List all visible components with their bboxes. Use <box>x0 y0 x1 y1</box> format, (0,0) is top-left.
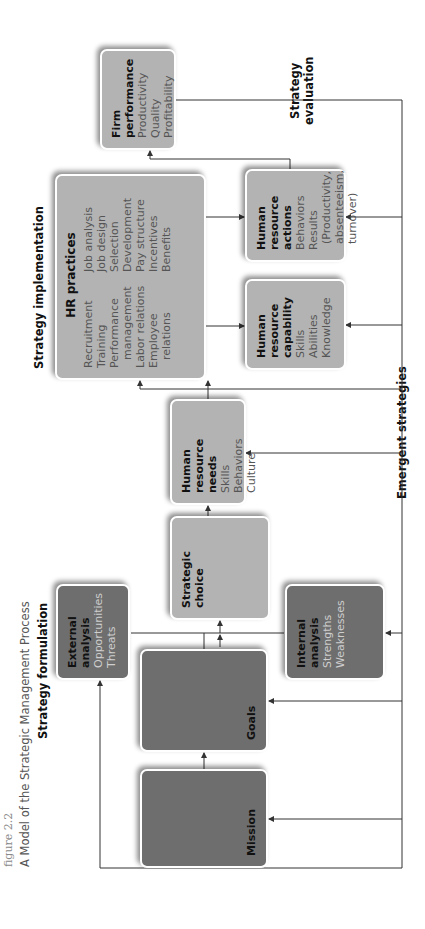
practice-item: Benefits <box>160 182 173 272</box>
performance-item: Profitability <box>162 57 175 138</box>
box-external-analysis: External analysis Opportunities Threats <box>56 584 130 680</box>
mission-title: Mission <box>245 777 258 856</box>
external-item: Opportunities <box>92 592 105 668</box>
external-item: Threats <box>105 592 118 668</box>
actions-title-2: resource <box>268 177 281 250</box>
box-firm-performance: Firm performance Productivity Quality Pr… <box>100 49 176 150</box>
box-strategic-choice: Strategic choice <box>170 516 270 620</box>
performance-item: Quality <box>149 57 162 138</box>
practices-col-1: Recruitment Training Performance managem… <box>82 278 173 368</box>
actions-title-1: Human <box>255 177 268 250</box>
needs-item: Behaviors <box>232 407 245 493</box>
practice-item: Training <box>95 278 108 368</box>
needs-title-2: resource <box>193 407 206 493</box>
practice-item: Pay structure <box>134 182 147 272</box>
performance-item: Productivity <box>136 57 149 138</box>
box-mission: Mission <box>140 769 268 868</box>
actions-item: Results <box>307 177 320 250</box>
practices-title: HR practices <box>65 182 78 368</box>
internal-title-2: analysis <box>308 592 321 668</box>
internal-item: Strengths <box>321 592 334 668</box>
needs-title-3: needs <box>206 407 219 493</box>
box-hr-actions: Human resource actions Behaviors Results… <box>245 169 346 262</box>
capability-item: Skills <box>294 287 307 358</box>
needs-item: Skills <box>219 407 232 493</box>
capability-title-1: Human <box>255 287 268 358</box>
internal-title-1: Internal <box>295 592 308 668</box>
box-hr-capability: Human resource capability Skills Abiliti… <box>245 279 346 370</box>
capability-item: Abilities <box>307 287 320 358</box>
needs-title-1: Human <box>180 407 193 493</box>
practice-item: Performance management <box>108 278 134 368</box>
capability-title-3: capability <box>281 287 294 358</box>
box-hr-needs: Human resource needs Skills Behaviors Cu… <box>170 399 246 505</box>
practice-item: Selection <box>108 182 121 272</box>
actions-item: Behaviors <box>294 177 307 250</box>
practice-item: Development <box>121 182 134 272</box>
actions-item: (Productivity, absenteeism, turnover) <box>320 177 359 250</box>
box-hr-practices: HR practices Recruitment Training Perfor… <box>55 174 206 380</box>
box-internal-analysis: Internal analysis Strengths Weaknesses <box>285 584 385 680</box>
box-goals: Goals <box>140 649 268 752</box>
capability-item: Knowledge <box>320 287 333 358</box>
needs-item: Culture <box>245 407 258 493</box>
practices-col-2: Job analysis Job design Selection Develo… <box>82 182 173 272</box>
actions-title-3: actions <box>281 177 294 250</box>
external-title-2: analysis <box>79 592 92 668</box>
choice-title-2: choice <box>193 524 206 608</box>
capability-title-2: resource <box>268 287 281 358</box>
internal-item: Weaknesses <box>334 592 347 668</box>
performance-title-2: performance <box>123 57 136 138</box>
strategic-management-diagram: figure 2.2 A Model of the Strategic Mana… <box>0 0 425 929</box>
practice-item: Employee relations <box>147 278 173 368</box>
practice-item: Recruitment <box>82 278 95 368</box>
practice-item: Labor relations <box>134 278 147 368</box>
practice-item: Job analysis <box>82 182 95 272</box>
goals-title: Goals <box>245 657 258 740</box>
external-title-1: External <box>66 592 79 668</box>
choice-title-1: Strategic <box>180 524 193 608</box>
practice-item: Incentives <box>147 182 160 272</box>
practice-item: Job design <box>95 182 108 272</box>
practices-columns: Recruitment Training Performance managem… <box>82 182 173 368</box>
performance-title-1: Firm <box>110 57 123 138</box>
